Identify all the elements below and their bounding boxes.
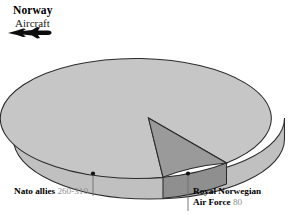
pie-chart-figure: Norway Aircraft Nato allies 260- — [0, 0, 297, 221]
callout-left-value: 260-310 — [57, 186, 88, 196]
page-title: Norway — [13, 4, 133, 16]
callout-royal-norwegian-air-force: Royal Norwegian Air Force 80 — [193, 186, 261, 207]
callout-right-value: 80 — [233, 197, 242, 207]
callout-right-line2: Air Force 80 — [193, 197, 261, 208]
leader-dot-right — [186, 171, 190, 175]
chart-title-block: Norway Aircraft — [13, 4, 133, 29]
pie-slice-nato-allies[interactable] — [0, 58, 271, 178]
page-subtitle: Aircraft — [15, 17, 133, 29]
callout-right-line1: Royal Norwegian — [193, 186, 261, 197]
callout-nato-allies: Nato allies 260-310 — [14, 186, 88, 197]
leader-dot-left — [91, 171, 95, 175]
callout-left-name: Nato allies — [14, 186, 55, 196]
